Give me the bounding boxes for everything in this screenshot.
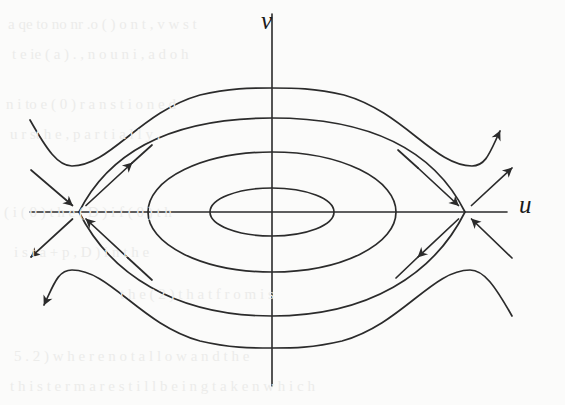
left-saddle-unstable-out-upper [86,163,132,206]
right-saddle-stable-tail-upper [398,150,418,168]
right-saddle-unstable-out-upper [472,168,513,206]
left-saddle-stable-tail-lower [128,258,152,280]
right-saddle-stable-in-lower [472,219,513,258]
outer-orbit-lower [44,270,512,348]
u-axis-label: u [519,192,532,217]
phase-portrait-figure: v u a qe to no nr .o ( ) o n t , v w s t… [0,0,565,405]
v-axis-label: v [261,8,272,33]
left-saddle-stable-in-upper [31,170,73,206]
outer-orbit-upper [30,88,500,166]
left-saddle-unstable-tail-upper [132,145,152,163]
right-saddle-unstable-tail-lower [396,257,418,278]
phase-portrait-canvas [0,0,565,405]
left-saddle-unstable-out-lower [31,219,73,257]
